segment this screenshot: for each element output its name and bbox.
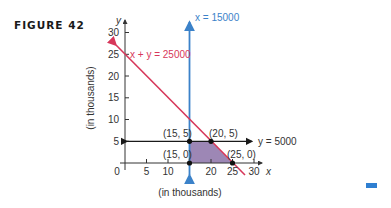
line-sum-label: x + y = 25000 xyxy=(130,49,191,60)
x-tick-30: 30 xyxy=(248,166,260,177)
x-tick-0: 0 xyxy=(114,166,120,177)
y-tick-15: 15 xyxy=(108,92,120,103)
y-units-label: (in thousands) xyxy=(85,66,96,129)
y-tick-30: 30 xyxy=(108,27,120,38)
x-units-label: (in thousands) xyxy=(158,187,221,198)
line-y-label: y = 5000 xyxy=(258,136,297,147)
y-tick-5: 5 xyxy=(113,136,119,147)
x-tick-20: 20 xyxy=(205,166,217,177)
line-x-label: x = 15000 xyxy=(195,12,240,23)
x-tick-25: 25 xyxy=(227,166,239,177)
point-label-15-5: (15, 5) xyxy=(163,128,192,139)
y-axis-label: y xyxy=(115,15,122,26)
point-label-20-5: (20, 5) xyxy=(209,128,238,139)
y-tick-20: 20 xyxy=(108,71,120,82)
x-tick-5: 5 xyxy=(144,166,150,177)
y-tick-10: 10 xyxy=(108,114,120,125)
chart-svg: 5 10 15 20 25 30 0 5 10 20 25 30 x y (in… xyxy=(0,0,391,208)
x-axis-label: x xyxy=(265,166,272,177)
point-label-15-0: (15, 0) xyxy=(163,149,192,160)
x-tick-10: 10 xyxy=(162,166,174,177)
point-label-25-0: (25, 0) xyxy=(227,149,256,160)
page-marker xyxy=(366,183,377,188)
y-tick-25: 25 xyxy=(108,49,120,60)
